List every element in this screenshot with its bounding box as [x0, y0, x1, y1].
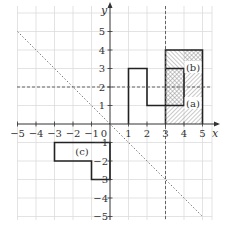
y-tick-label: −5 — [93, 211, 108, 222]
y-tick-label: −4 — [93, 193, 108, 204]
y-tick-label: 1 — [99, 100, 105, 111]
shape-c-label: (c) — [75, 146, 89, 157]
y-axis-arrow-icon — [108, 2, 113, 8]
y-tick-label: −1 — [93, 137, 108, 148]
y-tick-label: −3 — [93, 174, 108, 185]
y-tick-label: −2 — [93, 156, 108, 167]
y-axis-label: y — [100, 4, 108, 17]
x-axis-arrow-icon — [214, 122, 220, 127]
x-tick-label: −5 — [10, 128, 25, 139]
x-tick-label: 4 — [181, 128, 187, 139]
y-tick-label: 3 — [99, 63, 105, 74]
coordinate-plane: −5 −4 −3 −2 −1 0 1 2 3 4 5 x 5 4 3 2 1 −… — [0, 0, 229, 225]
x-tick-label: −2 — [66, 128, 81, 139]
x-axis-label: x — [212, 127, 219, 140]
x-tick-label: 3 — [162, 128, 168, 139]
x-tick-label: 1 — [125, 128, 131, 139]
y-tick-label: 4 — [99, 45, 105, 56]
y-tick-label: 2 — [99, 82, 105, 93]
y-tick-label: 5 — [99, 26, 105, 37]
x-tick-label: −3 — [47, 128, 62, 139]
x-tick-label: −4 — [29, 128, 44, 139]
shape-b-label: (b) — [186, 62, 200, 73]
x-tick-label: 5 — [199, 128, 205, 139]
shape-a-label: (a) — [186, 98, 200, 109]
x-tick-label: 2 — [144, 128, 150, 139]
